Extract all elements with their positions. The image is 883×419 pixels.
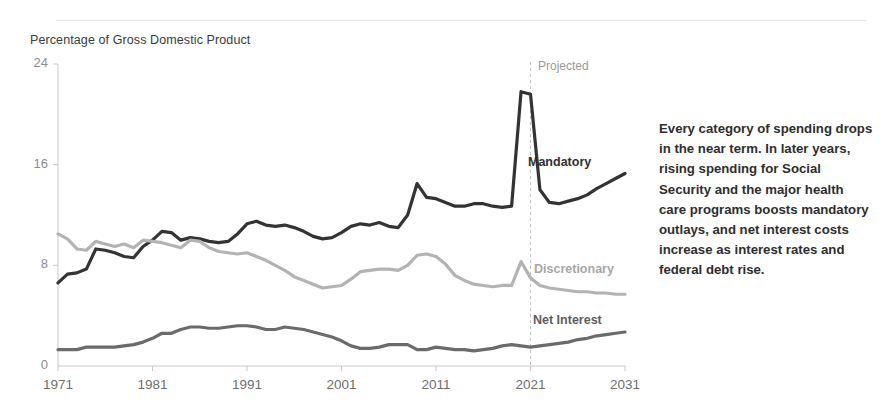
x-axis-tick-label: 2031 (595, 377, 655, 392)
x-axis-tick-label: 2011 (406, 377, 466, 392)
chart-caption-text: Every category of spending drops in the … (659, 119, 874, 281)
x-axis-tick-label: 1991 (217, 377, 277, 392)
projected-annotation-label: Projected (538, 59, 589, 73)
x-axis-tick-label: 1971 (28, 377, 88, 392)
series-label-mandatory: Mandatory (528, 155, 591, 169)
x-axis-tick-label: 1981 (123, 377, 183, 392)
spending-categories-line-chart: Percentage of Gross Domestic Product Pro… (0, 0, 650, 419)
y-axis-tick-label: 0 (18, 357, 48, 372)
series-label-discretionary: Discretionary (534, 262, 614, 276)
y-axis-tick-label: 16 (18, 156, 48, 171)
x-axis-tick-label: 2001 (312, 377, 372, 392)
x-axis-tick-label: 2021 (501, 377, 561, 392)
series-label-net-interest: Net Interest (533, 313, 602, 327)
y-axis-tick-label: 24 (18, 55, 48, 70)
y-axis-tick-label: 8 (18, 256, 48, 271)
